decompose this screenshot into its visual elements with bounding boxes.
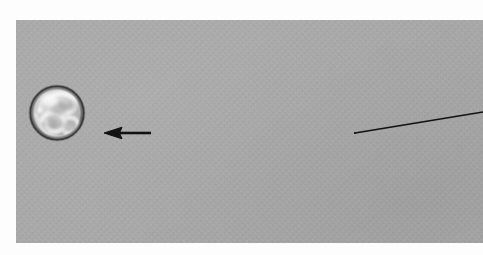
micrograph-panel <box>16 20 483 243</box>
leader-line <box>330 85 483 145</box>
figure-root <box>0 0 483 255</box>
spherical-particle-graphic <box>28 84 86 142</box>
spherical-particle <box>28 84 86 142</box>
pointer-arrow-icon <box>103 122 153 144</box>
